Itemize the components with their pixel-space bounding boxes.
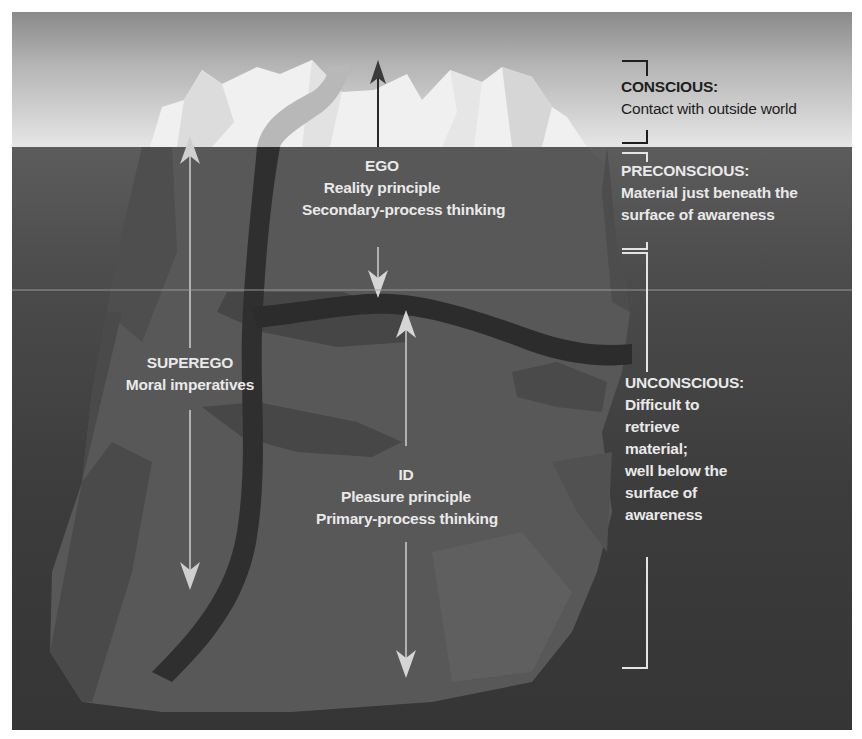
preconscious-title: PRECONSCIOUS:: [621, 160, 798, 182]
preconscious-bracket-bottom: [622, 242, 648, 250]
ego-line-2: Secondary-process thinking: [302, 199, 462, 221]
id-label: ID Pleasure principle Primary-process th…: [316, 464, 496, 530]
preconscious-line-2: surface of awareness: [621, 204, 798, 226]
unconscious-line-3: material;: [625, 438, 744, 460]
ego-title: EGO: [302, 155, 462, 177]
conscious-bracket-top: [622, 60, 648, 76]
unconscious-label: UNCONSCIOUS: Difficult to retrieve mater…: [625, 372, 744, 526]
unconscious-bracket-top: [622, 252, 648, 372]
iceberg-body: [50, 147, 630, 712]
iceberg-diagram: EGO Reality principle Secondary-process …: [12, 12, 852, 730]
preconscious-line-1: Material just beneath the: [621, 182, 798, 204]
unconscious-bracket-bottom: [622, 557, 648, 669]
conscious-title: CONSCIOUS:: [621, 76, 797, 98]
conscious-bracket-bottom: [622, 130, 648, 144]
unconscious-line-2: retrieve: [625, 416, 744, 438]
preconscious-label: PRECONSCIOUS: Material just beneath the …: [621, 160, 798, 226]
id-title: ID: [316, 464, 496, 486]
id-line-2: Primary-process thinking: [316, 508, 496, 530]
unconscious-title: UNCONSCIOUS:: [625, 372, 744, 394]
unconscious-line-6: awareness: [625, 504, 744, 526]
iceberg-tip: [150, 60, 587, 147]
ego-label: EGO Reality principle Secondary-process …: [302, 155, 462, 221]
superego-label: SUPEREGO Moral imperatives: [110, 352, 270, 396]
unconscious-line-1: Difficult to: [625, 394, 744, 416]
superego-line-1: Moral imperatives: [110, 374, 270, 396]
unconscious-line-5: surface of: [625, 482, 744, 504]
waterline-highlight: [12, 289, 852, 291]
ego-line-1: Reality principle: [302, 177, 462, 199]
unconscious-line-4: well below the: [625, 460, 744, 482]
conscious-line-1: Contact with outside world: [621, 98, 797, 120]
superego-title: SUPEREGO: [110, 352, 270, 374]
id-line-1: Pleasure principle: [316, 486, 496, 508]
conscious-label: CONSCIOUS: Contact with outside world: [621, 76, 797, 120]
